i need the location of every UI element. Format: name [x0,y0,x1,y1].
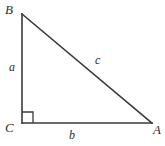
side-label-a: a [9,61,15,73]
vertex-label-b: B [5,3,13,16]
triangle-drawing [0,0,165,146]
side-label-b: b [69,129,75,141]
right-triangle-figure: B C A a b c [0,0,165,146]
vertex-label-c: C [5,121,14,134]
side-c-line [22,14,152,123]
right-angle-marker-icon [22,112,33,123]
vertex-label-a: A [153,123,161,136]
side-label-c: c [95,54,100,66]
